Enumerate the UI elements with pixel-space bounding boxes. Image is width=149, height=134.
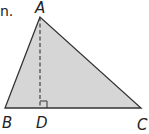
caption-fragment: n. bbox=[0, 3, 13, 19]
vertex-label-a: A bbox=[34, 0, 45, 17]
vertex-label-c: C bbox=[137, 116, 148, 134]
vertex-label-b: B bbox=[2, 114, 12, 132]
vertex-label-d: D bbox=[36, 114, 48, 132]
triangle-diagram: n. A B D C bbox=[0, 0, 149, 134]
triangle-abc bbox=[5, 17, 141, 108]
